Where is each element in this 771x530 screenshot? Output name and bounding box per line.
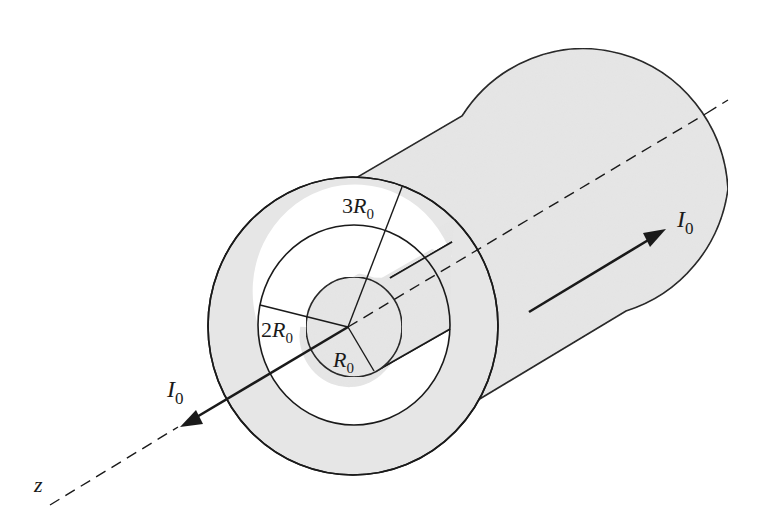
svg-text:I0: I0 [166, 376, 184, 408]
z-axis-back [707, 100, 728, 113]
inner-conductor-face [306, 277, 402, 377]
arrowhead-icon [180, 410, 203, 427]
label-z-axis: z [33, 472, 43, 497]
svg-text:z: z [33, 472, 43, 497]
label-current-inner: I0 [166, 376, 184, 408]
z-axis-front [50, 427, 178, 505]
coaxial-cable-diagram: 3R0 2R0 R0 I0 I0 z [0, 0, 771, 530]
